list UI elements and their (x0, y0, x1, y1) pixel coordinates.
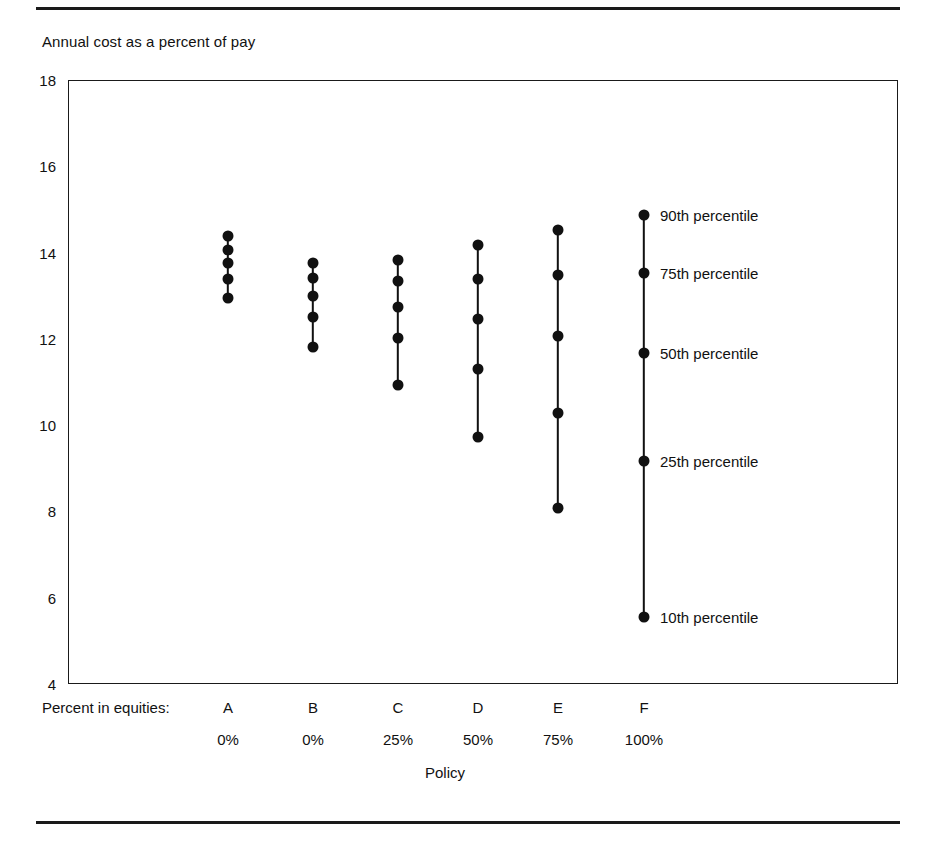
x-axis-equities-percent-b: 0% (302, 731, 324, 748)
x-axis-title: Policy (425, 764, 465, 781)
equities-caption-label: Percent in equities: (42, 699, 170, 716)
x-axis-equities-percent-c: 25% (383, 731, 413, 748)
x-axis-category-e: E (553, 699, 563, 716)
x-axis-equities-percent-a: 0% (217, 731, 239, 748)
x-axis-category-c: C (393, 699, 404, 716)
x-axis: Percent in equities: Policy A0%B0%C25%D5… (0, 0, 934, 849)
x-axis-category-d: D (473, 699, 484, 716)
x-axis-equities-percent-d: 50% (463, 731, 493, 748)
x-axis-category-f: F (639, 699, 648, 716)
x-axis-category-b: B (308, 699, 318, 716)
x-axis-equities-percent-e: 75% (543, 731, 573, 748)
x-axis-equities-percent-f: 100% (625, 731, 663, 748)
x-axis-category-a: A (223, 699, 233, 716)
